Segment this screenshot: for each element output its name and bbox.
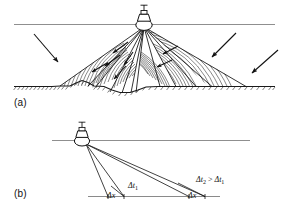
oblique-ray-pair [86,144,205,197]
figure-container: (a) (b) Δt1 Δt2 > Δt1 Δx Δx [0,0,288,218]
near-nadir-ray-pair [86,144,124,197]
seafloor-profile-line [14,81,275,93]
panel-b-group [52,122,250,199]
delta-t2-relation-label: Δt2 > Δt1 [196,176,224,184]
delta-t1-subscript: 1 [135,185,138,191]
diagram-canvas [0,0,288,218]
delta-x-right-label: Δx [188,192,196,200]
panel-a-group [14,5,278,101]
delta-x-left-label: Δx [107,192,115,200]
panel-label-b: (b) [14,188,27,199]
delta-t1-ref-subscript: 1 [221,179,224,185]
seafloor-hatching [14,82,275,97]
delta-t2-symbol: Δt [196,175,203,184]
survey-vessel-b [74,122,89,146]
survey-vessel-a [136,5,152,30]
delta-t1-symbol: Δt [128,181,135,190]
delta-t2-subscript: 2 [203,179,206,185]
panel-label-a: (a) [14,97,27,108]
delta-t1-label: Δt1 [128,182,138,190]
